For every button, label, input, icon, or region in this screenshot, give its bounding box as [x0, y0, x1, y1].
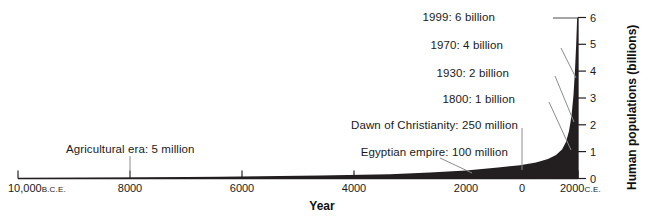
y-tick-label-3: 3	[590, 92, 596, 104]
leader-line-1970	[561, 48, 576, 78]
annotation-egyptian-empire: Egyptian empire: 100 million	[361, 146, 508, 158]
population-growth-chart: 1999: 6 billion 1970: 4 billion 1930: 2 …	[0, 0, 655, 221]
x-tick-label-2000-bce: 2000	[454, 182, 478, 194]
annotation-1800: 1800: 1 billion	[443, 93, 515, 105]
annotation-agricultural-era: Agricultural era: 5 million	[66, 143, 195, 155]
x-tick-label-4000: 4000	[342, 182, 366, 194]
x-tick-start-value: 10,000	[8, 182, 42, 194]
leader-line-1930	[555, 76, 574, 122]
annotation-dawn-of-christianity: Dawn of Christianity: 250 million	[351, 119, 518, 131]
y-tick-label-0: 0	[590, 173, 596, 185]
y-axis-ticks	[578, 18, 586, 179]
y-tick-label-4: 4	[590, 65, 596, 77]
annotation-1970: 1970: 4 billion	[431, 39, 503, 51]
annotation-1999: 1999: 6 billion	[423, 11, 495, 23]
chart-canvas	[0, 0, 655, 221]
x-tick-label-6000: 6000	[230, 182, 254, 194]
x-tick-start-era: B.C.E.	[42, 185, 66, 194]
y-tick-label-2: 2	[590, 119, 596, 131]
y-tick-label-1: 1	[590, 146, 596, 158]
y-tick-label-6: 6	[590, 12, 596, 24]
x-axis-title: Year	[309, 199, 334, 213]
x-tick-label-8000: 8000	[118, 182, 142, 194]
x-tick-label-start: 10,000B.C.E.	[8, 182, 66, 194]
x-tick-end-era: C.E.	[584, 185, 600, 194]
x-tick-end-value: 2000	[560, 182, 584, 194]
y-axis-title: Human populations (billions)	[625, 25, 639, 190]
y-tick-label-5: 5	[590, 38, 596, 50]
annotation-1930: 1930: 2 billion	[437, 67, 509, 79]
leader-line-egyptian-empire	[440, 158, 472, 173]
leader-line-1800	[549, 102, 571, 150]
x-tick-label-zero: 0	[519, 182, 525, 194]
